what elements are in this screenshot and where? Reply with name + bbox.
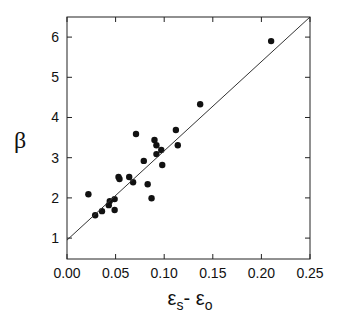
data-point [159,162,165,168]
regression-line [67,17,310,240]
x-tick-label: 0.05 [102,265,129,281]
x-tick-label: 0.25 [296,265,323,281]
data-point [148,195,154,201]
x-tick-label: 0.00 [53,265,80,281]
y-axis-label: β [14,127,26,153]
plot-area [67,17,310,240]
y-axis: 123456 [51,29,310,246]
data-point [197,101,203,107]
plot-frame [67,17,310,259]
y-tick-label: 3 [51,150,59,166]
y-tick-label: 4 [51,109,59,125]
x-tick-label: 0.15 [199,265,226,281]
data-point [173,127,179,133]
data-point [92,212,98,218]
x-tick-label: 0.20 [248,265,275,281]
data-point [144,181,150,187]
data-point [116,176,122,182]
data-point [111,207,117,213]
data-point [141,158,147,164]
data-point [175,142,181,148]
x-axis: 0.000.050.100.150.200.25 [53,17,323,281]
data-point [158,147,164,153]
data-point [153,142,159,148]
x-tick-label: 0.10 [151,265,178,281]
y-tick-label: 6 [51,29,59,45]
data-point [126,174,132,180]
y-tick-label: 5 [51,69,59,85]
data-point [268,38,274,44]
data-point [133,131,139,137]
data-point [85,191,91,197]
y-tick-label: 2 [51,190,59,206]
data-point [99,208,105,214]
scatter-chart: 0.000.050.100.150.200.25 123456 β εs- εo [0,0,341,330]
y-tick-label: 1 [51,230,59,246]
x-axis-label: εs- εo [168,287,213,313]
